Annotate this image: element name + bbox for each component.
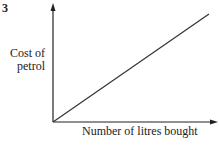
- y-axis: [51, 3, 56, 122]
- data-line: [53, 14, 209, 122]
- x-axis-arrow-icon: [210, 120, 218, 125]
- y-axis-arrow-icon: [51, 3, 56, 11]
- x-axis-label: Number of litres bought: [82, 124, 198, 139]
